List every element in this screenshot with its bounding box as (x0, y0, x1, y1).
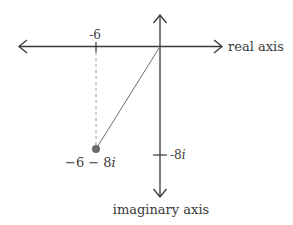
point-label-main: −6 − 8 (65, 155, 112, 170)
imag-tick-label-i: i (182, 148, 186, 162)
imaginary-axis-label: imaginary axis (113, 202, 209, 217)
point-label-i: i (112, 155, 116, 170)
point-label: −6 − 8i (65, 155, 116, 170)
imaginary-axis (154, 15, 167, 197)
modulus-segment (96, 47, 160, 150)
imag-tick-label: -8i (170, 148, 186, 162)
real-tick-label: -6 (89, 28, 101, 42)
real-axis-label: real axis (228, 39, 284, 54)
point-minus-6-minus-8i (92, 145, 100, 153)
complex-plane-diagram: -6 real axis -8i −6 − 8i imaginary axis (0, 0, 293, 225)
imag-tick-label-number: -8 (170, 148, 182, 162)
real-axis (19, 40, 222, 53)
